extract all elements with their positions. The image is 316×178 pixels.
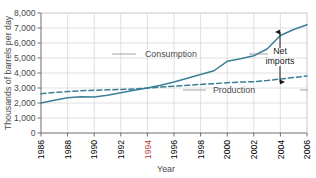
- x-axis-tick-label: 1996: [169, 140, 179, 159]
- y-axis-tick-labels: 01,0002,0003,0004,0005,0006,0007,0008,00…: [14, 8, 36, 138]
- y-axis-ticks: [38, 13, 42, 133]
- net-imports-label-line2: imports: [266, 56, 295, 66]
- y-axis-tick-label: 0: [31, 128, 36, 138]
- x-axis-tick-label: 2002: [249, 140, 259, 159]
- y-axis-tick-label: 2,000: [14, 98, 36, 108]
- y-axis-tick-label: 8,000: [14, 8, 36, 18]
- x-axis-tick-label: 1988: [63, 140, 73, 159]
- x-axis-tick-label: 1986: [36, 140, 46, 159]
- y-axis-tick-label: 7,000: [14, 23, 36, 33]
- x-axis-title: Year: [157, 164, 175, 174]
- chart-container: 01,0002,0003,0004,0005,0006,0007,0008,00…: [0, 0, 316, 178]
- x-axis-tick-label: 2004: [276, 140, 286, 159]
- x-axis-tick-label: 2000: [222, 140, 232, 159]
- net-imports-label-line1: Net: [273, 46, 287, 56]
- x-axis-tick-label: 1992: [116, 140, 126, 159]
- x-axis-tick-label: 2006: [302, 140, 312, 159]
- y-axis-tick-label: 3,000: [14, 83, 36, 93]
- x-axis-ticks: [41, 133, 307, 137]
- y-axis-tick-label: 1,000: [14, 113, 36, 123]
- series-label-production: Production: [213, 85, 255, 95]
- y-axis-title: Thousands of barrels per day: [3, 15, 13, 130]
- x-axis-tick-label: 1990: [89, 140, 99, 159]
- x-axis-tick-label: 1994: [143, 140, 153, 159]
- y-axis-tick-label: 5,000: [14, 53, 36, 63]
- y-axis-tick-label: 6,000: [14, 38, 36, 48]
- y-axis-tick-label: 4,000: [14, 68, 36, 78]
- x-axis-tick-labels: 1986198819901992199419961998200020022004…: [36, 140, 312, 159]
- oil-consumption-production-line-chart: 01,0002,0003,0004,0005,0006,0007,0008,00…: [0, 0, 316, 178]
- series-label-consumption: Consumption: [145, 49, 197, 59]
- x-axis-tick-label: 1998: [196, 140, 206, 159]
